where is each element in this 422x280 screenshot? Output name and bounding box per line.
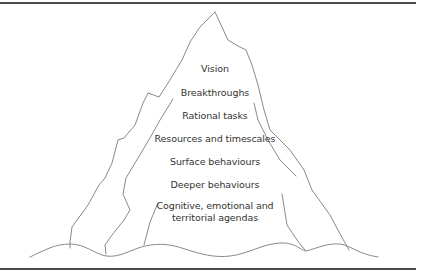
iceberg-figure: Vision Breakthroughs Rational tasks Reso… (0, 0, 422, 280)
layer-breakthroughs: Breakthroughs (115, 87, 315, 99)
layer-rational-tasks: Rational tasks (115, 110, 315, 122)
layer-deeper-behaviours: Deeper behaviours (115, 179, 315, 191)
layer-vision: Vision (115, 63, 315, 75)
iceberg-labels: Vision Breakthroughs Rational tasks Reso… (0, 0, 422, 280)
bottom-rule (0, 268, 416, 270)
layer-surface-behaviours: Surface behaviours (115, 156, 315, 168)
layer-resources-and-timescales: Resources and timescales (115, 133, 315, 145)
layer-cognitive-line1: Cognitive, emotional and (115, 200, 315, 212)
layer-cognitive-line2: territorial agendas (115, 212, 315, 224)
